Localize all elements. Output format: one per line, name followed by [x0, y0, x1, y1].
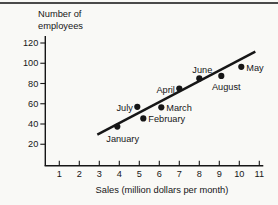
x-tick-label-7: 7 [177, 169, 182, 179]
scatter-figure: Number of employees 20406080100120123456… [0, 0, 278, 205]
data-point-may [238, 64, 244, 70]
x-tick-label-11: 11 [255, 169, 265, 179]
x-tick-label-2: 2 [77, 169, 82, 179]
y-tick-label-80: 80 [28, 79, 38, 89]
x-tick-label-4: 4 [117, 169, 122, 179]
data-point-february [140, 115, 146, 121]
data-point-august [218, 73, 224, 79]
point-label-may: May [246, 63, 264, 73]
x-tick-label-1: 1 [57, 169, 62, 179]
point-label-april: April [156, 85, 174, 95]
y-tick-label-120: 120 [23, 38, 38, 48]
x-tick-label-8: 8 [197, 169, 202, 179]
point-label-january: January [106, 134, 139, 144]
point-label-february: February [148, 114, 185, 124]
y-tick-label-40: 40 [28, 119, 38, 129]
x-tick-label-5: 5 [137, 169, 142, 179]
scatter-chart: 204060801001201234567891011JanuaryFebrua… [0, 0, 278, 205]
data-point-july [134, 104, 140, 110]
data-point-march [158, 104, 164, 110]
data-point-june [196, 75, 202, 81]
point-label-july: July [116, 103, 133, 113]
x-tick-label-3: 3 [97, 169, 102, 179]
point-label-march: March [166, 103, 192, 113]
y-tick-label-100: 100 [23, 58, 38, 68]
x-tick-label-10: 10 [234, 169, 244, 179]
point-label-august: August [212, 82, 241, 92]
y-tick-label-60: 60 [28, 99, 38, 109]
point-label-june: June [192, 65, 212, 75]
data-point-april [176, 85, 182, 91]
y-tick-label-20: 20 [28, 139, 38, 149]
data-point-january [114, 123, 120, 129]
x-tick-label-6: 6 [157, 169, 162, 179]
x-tick-label-9: 9 [217, 169, 222, 179]
x-axis-title: Sales (million dollars per month) [56, 185, 268, 195]
